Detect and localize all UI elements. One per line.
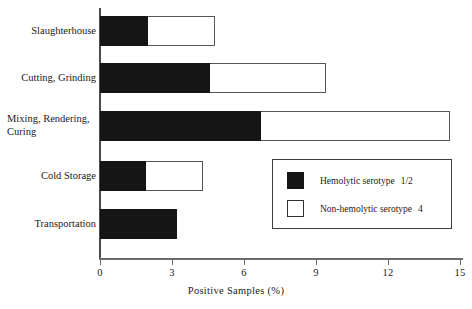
legend-code-hemolytic: 1/2 [401, 176, 413, 186]
bar-row [100, 161, 203, 191]
legend-label-non-hemolytic: Non-hemolytic serotype [320, 204, 412, 214]
x-tick-label-3: 3 [169, 267, 174, 278]
x-tick-3 [172, 259, 173, 265]
bar-segment-hemolytic [100, 161, 146, 191]
category-label: Mixing, Rendering,Curing [7, 113, 95, 138]
x-axis-line [99, 258, 463, 260]
bar-segment-hemolytic [100, 16, 148, 46]
legend-item-hemolytic: Hemolytic serotype 1/2 [287, 172, 413, 189]
bar-segment-hemolytic [100, 111, 261, 141]
x-tick-9 [316, 259, 317, 265]
legend-label-hemolytic: Hemolytic serotype [320, 176, 395, 186]
category-label: Transportation [4, 218, 96, 231]
x-axis-title: Positive Samples (%) [0, 285, 472, 296]
bar-segment-hemolytic [100, 63, 210, 93]
legend-code-non-hemolytic: 4 [418, 204, 423, 214]
bar-row [100, 63, 326, 93]
bar-segment-hemolytic [100, 209, 177, 239]
x-tick-label-15: 15 [455, 267, 466, 278]
x-tick-6 [244, 259, 245, 265]
bar-segment-non-hemolytic [261, 111, 451, 141]
legend-swatch-dark-icon [287, 172, 304, 189]
bar-segment-non-hemolytic [146, 161, 204, 191]
x-tick-label-0: 0 [97, 267, 102, 278]
legend-item-non-hemolytic: Non-hemolytic serotype 4 [287, 200, 423, 217]
category-label-line: Curing [7, 126, 95, 139]
x-tick-label-12: 12 [383, 267, 394, 278]
x-tick-15 [460, 259, 461, 265]
category-label-line: Slaughterhouse [4, 25, 96, 38]
category-label-line: Mixing, Rendering, [7, 113, 95, 126]
x-tick-label-9: 9 [313, 267, 318, 278]
legend-swatch-light-icon [287, 200, 304, 217]
category-label-line: Cold Storage [4, 170, 96, 183]
category-label: Slaughterhouse [4, 25, 96, 38]
bar-row [100, 209, 177, 239]
x-tick-12 [388, 259, 389, 265]
category-label: Cutting, Grinding [4, 72, 96, 85]
x-tick-0 [100, 259, 101, 265]
bar-segment-non-hemolytic [148, 16, 215, 46]
bar-row [100, 16, 215, 46]
x-tick-label-6: 6 [241, 267, 246, 278]
bar-chart-figure: 03691215 SlaughterhouseCutting, Grinding… [0, 0, 472, 309]
legend: Hemolytic serotype 1/2 Non-hemolytic ser… [272, 159, 452, 229]
bar-segment-non-hemolytic [210, 63, 325, 93]
category-label: Cold Storage [4, 170, 96, 183]
category-label-line: Transportation [4, 218, 96, 231]
y-axis-category-labels: SlaughterhouseCutting, GrindingMixing, R… [0, 0, 96, 309]
bar-row [100, 111, 450, 141]
category-label-line: Cutting, Grinding [4, 72, 96, 85]
